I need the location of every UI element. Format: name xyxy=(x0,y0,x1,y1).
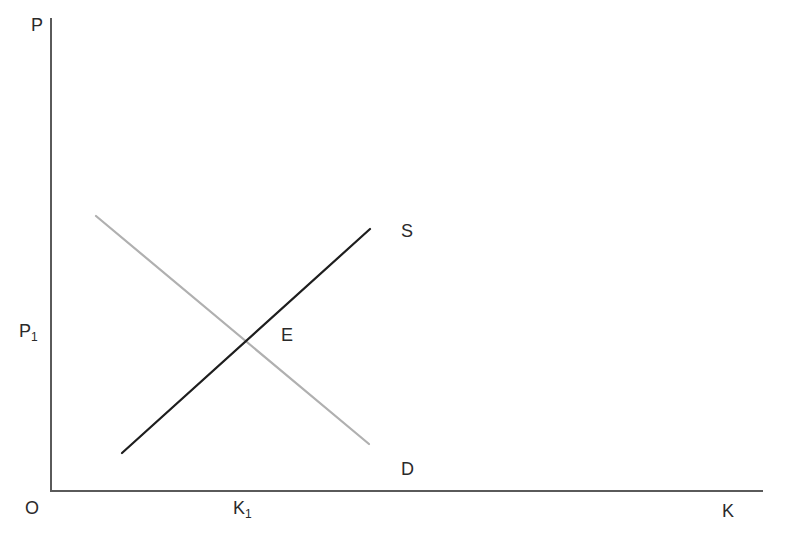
y-axis-label: P xyxy=(31,16,43,34)
x-axis-label: K xyxy=(722,502,734,520)
equilibrium-point-label: E xyxy=(281,326,293,344)
origin-label: O xyxy=(25,499,39,517)
supply-curve xyxy=(122,229,370,453)
price-label-subscript: 1 xyxy=(31,330,38,344)
quantity-label-main: K xyxy=(233,498,245,518)
quantity-equilibrium-label: K1 xyxy=(233,499,252,517)
quantity-label-subscript: 1 xyxy=(245,507,252,521)
price-equilibrium-label: P1 xyxy=(19,322,38,340)
demand-curve-label: D xyxy=(401,460,414,478)
diagram-canvas xyxy=(0,0,789,544)
supply-curve-label: S xyxy=(401,222,413,240)
price-label-main: P xyxy=(19,321,31,341)
demand-curve xyxy=(96,216,369,444)
